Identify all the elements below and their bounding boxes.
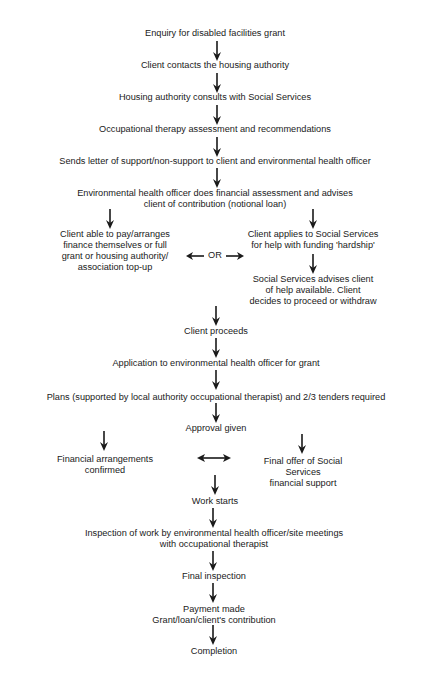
line: with occupational therapist bbox=[0, 539, 428, 550]
arrow-down-icon bbox=[308, 209, 318, 229]
step-final-offer-social-services: Final offer of Social Services financial… bbox=[228, 456, 378, 489]
arrow-left-icon bbox=[186, 251, 204, 261]
step-payment: Payment made Grant/loan/client's contrib… bbox=[0, 604, 428, 626]
arrow-down-icon bbox=[297, 434, 307, 454]
arrow-down-icon bbox=[208, 508, 218, 528]
step-application: Application to environmental health offi… bbox=[0, 358, 430, 369]
line: Payment made bbox=[0, 604, 428, 615]
arrow-down-icon bbox=[212, 137, 222, 157]
or-label: OR bbox=[204, 250, 226, 261]
step-enquiry: Enquiry for disabled facilities grant bbox=[0, 28, 430, 39]
line: Inspection of work by environmental heal… bbox=[0, 528, 428, 539]
step-approval: Approval given bbox=[0, 423, 430, 434]
arrow-down-icon bbox=[105, 209, 115, 229]
step-eho-assessment-line2: client of contribution (notional loan) bbox=[0, 199, 430, 210]
arrow-down-icon bbox=[212, 41, 222, 61]
line: decides to proceed or withdraw bbox=[228, 296, 398, 307]
step-inspection: Inspection of work by environmental heal… bbox=[0, 528, 428, 550]
step-client-proceeds: Client proceeds bbox=[0, 326, 430, 337]
line: Client able to pay/arranges bbox=[40, 229, 190, 240]
arrow-right-icon bbox=[226, 251, 244, 261]
arrow-down-icon bbox=[208, 625, 218, 645]
step-eho-assessment-line1: Environmental health officer does financ… bbox=[0, 188, 430, 199]
line: Financial arrangements bbox=[30, 454, 180, 465]
arrow-down-icon bbox=[210, 475, 220, 495]
arrow-down-icon bbox=[208, 551, 218, 571]
line: confirmed bbox=[30, 465, 180, 476]
line: Services bbox=[228, 467, 378, 478]
step-final-inspection: Final inspection bbox=[0, 571, 428, 582]
arrow-down-icon bbox=[99, 431, 109, 451]
step-contact: Client contacts the housing authority bbox=[0, 60, 430, 71]
arrow-down-icon bbox=[212, 105, 222, 125]
arrow-down-icon bbox=[212, 73, 222, 93]
step-social-services-advises: Social Services advises client of help a… bbox=[228, 274, 398, 307]
line: financial support bbox=[228, 478, 378, 489]
step-eho-assessment: Environmental health officer does financ… bbox=[0, 188, 430, 210]
arrow-down-icon bbox=[308, 254, 318, 274]
step-plans: Plans (supported by local authority occu… bbox=[0, 392, 430, 403]
line: Final offer of Social bbox=[228, 456, 378, 467]
step-financial-arrangements: Financial arrangements confirmed bbox=[30, 454, 180, 476]
step-client-applies-social-services: Client applies to Social Services for he… bbox=[228, 229, 398, 251]
line: Social Services advises client bbox=[228, 274, 398, 285]
step-consult: Housing authority consults with Social S… bbox=[0, 92, 430, 103]
line: Client applies to Social Services bbox=[228, 229, 398, 240]
arrow-down-icon bbox=[212, 168, 222, 188]
arrow-down-icon bbox=[211, 370, 221, 390]
step-completion: Completion bbox=[0, 646, 428, 657]
arrow-down-icon bbox=[208, 583, 218, 603]
line: association top-up bbox=[40, 262, 190, 273]
arrow-down-icon bbox=[211, 338, 221, 358]
step-client-able-to-pay: Client able to pay/arranges finance them… bbox=[40, 229, 190, 273]
line: for help with funding 'hardship' bbox=[228, 240, 398, 251]
line: finance themselves or full bbox=[40, 240, 190, 251]
line: of help available. Client bbox=[228, 285, 398, 296]
arrow-down-icon bbox=[211, 306, 221, 326]
step-work-starts: Work starts bbox=[0, 496, 430, 507]
double-arrow-icon bbox=[197, 453, 231, 463]
step-letter: Sends letter of support/non-support to c… bbox=[0, 156, 430, 167]
step-ot-assessment: Occupational therapy assessment and reco… bbox=[0, 124, 430, 135]
line: grant or housing authority/ bbox=[40, 251, 190, 262]
arrow-down-icon bbox=[211, 403, 221, 423]
